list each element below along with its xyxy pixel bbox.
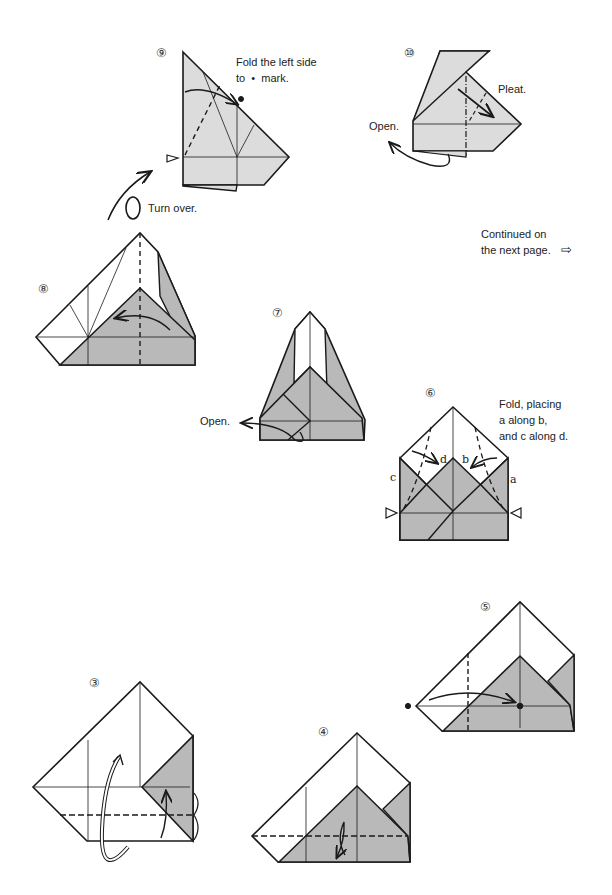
step-7-diagram [242, 312, 365, 441]
step-6-number: ⑥ [425, 386, 436, 400]
instruction-page: ⑨ ⑩ ⑧ ⑦ ⑥ ⑤ ③ ④ Fold the left side to • … [0, 0, 612, 895]
step-6-letter-b: b [462, 452, 469, 467]
diagrams-canvas [0, 0, 612, 895]
step-8-number: ⑧ [38, 282, 49, 296]
step-6-instruction-1: Fold, placing [499, 397, 561, 412]
step-9-instruction-1: Fold the left side [236, 55, 317, 70]
step-3-diagram [33, 682, 198, 860]
step-6-letter-c: c [390, 470, 396, 485]
step-4-number: ④ [318, 725, 329, 739]
step-6-instruction-2: a along b, [499, 413, 547, 428]
step-7-number: ⑦ [272, 306, 283, 320]
step-9-instruction-2: to • mark. [236, 71, 289, 86]
step-10-diagram [390, 51, 521, 166]
step-5-number: ⑤ [480, 600, 491, 614]
step-9-turn-over: Turn over. [148, 201, 197, 216]
step-7-open: Open. [200, 414, 230, 429]
step-5-diagram [405, 602, 574, 731]
step-9-number: ⑨ [156, 46, 167, 60]
step-4-diagram [252, 733, 410, 862]
step-6-letter-d: d [440, 452, 447, 467]
continued-line-2: the next page. [481, 243, 551, 258]
step-10-number: ⑩ [404, 46, 415, 60]
next-page-arrow-icon: ⇨ [561, 242, 572, 257]
step-3-number: ③ [89, 676, 100, 690]
continued-line-1: Continued on [481, 227, 546, 242]
step-6-instruction-3: and c along d. [499, 429, 568, 444]
step-6-letter-a: a [510, 472, 517, 487]
step-10-pleat: Pleat. [498, 82, 526, 97]
step-10-open: Open. [369, 119, 399, 134]
step-8-diagram [36, 233, 195, 365]
